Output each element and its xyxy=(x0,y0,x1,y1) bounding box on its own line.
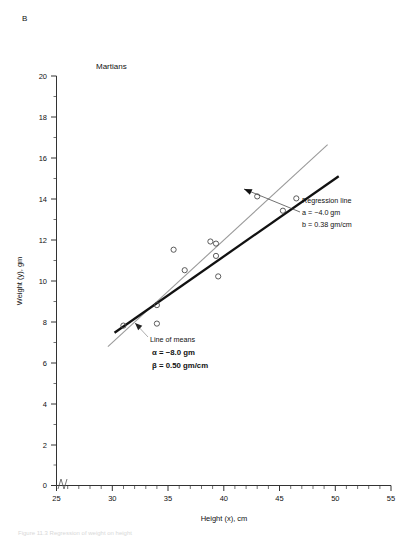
regression-annotation: Regression line a = −4.0 gm b = 0.38 gm/… xyxy=(244,189,352,229)
data-point xyxy=(171,247,176,252)
line-of-means-beta: β = 0.50 gm/cm xyxy=(152,361,208,370)
regression-coef-a: a = −4.0 gm xyxy=(302,208,340,217)
y-tick-label: 12 xyxy=(39,236,47,245)
data-point xyxy=(213,241,218,246)
x-tick-label: 35 xyxy=(164,494,172,503)
y-tick-label: 2 xyxy=(43,441,47,450)
x-tick-label: 55 xyxy=(387,494,395,503)
figure-panel: B Martians xyxy=(0,0,411,541)
y-axis-title: Weight (y), gm xyxy=(15,257,24,306)
data-point xyxy=(280,208,285,213)
y-tick-label: 20 xyxy=(39,72,47,81)
line-of-means-annotation: Line of means α = −8.0 gm β = 0.50 gm/cm xyxy=(135,323,208,370)
data-point xyxy=(154,321,159,326)
y-axis-tick-labels: 20 18 16 14 12 10 8 6 4 2 0 xyxy=(39,72,47,490)
data-point xyxy=(294,196,299,201)
x-tick-label: 50 xyxy=(331,494,339,503)
regression-line-label: Regression line xyxy=(302,196,352,205)
axis-lines xyxy=(57,76,392,489)
x-axis-tick-labels: 25 30 35 40 45 50 55 xyxy=(52,494,395,503)
line-of-means-label: Line of means xyxy=(150,335,196,344)
data-point xyxy=(182,268,187,273)
x-tick-label: 40 xyxy=(220,494,228,503)
y-tick-label: 4 xyxy=(43,400,47,409)
y-axis-ticks xyxy=(51,76,57,486)
y-tick-label: 10 xyxy=(39,277,47,286)
data-point xyxy=(213,253,218,258)
scatter-chart: 20 18 16 14 12 10 8 6 4 2 0 xyxy=(0,0,411,541)
data-point xyxy=(208,239,213,244)
x-axis-title: Height (x), cm xyxy=(201,514,248,523)
y-tick-label: 16 xyxy=(39,154,47,163)
y-tick-label: 0 xyxy=(43,481,47,490)
x-tick-label: 30 xyxy=(108,494,116,503)
data-point xyxy=(216,274,221,279)
figure-caption: Figure 11.3 Regression of weight on heig… xyxy=(18,530,132,536)
y-tick-label: 6 xyxy=(43,359,47,368)
regression-coef-b: b = 0.38 gm/cm xyxy=(302,220,352,229)
x-tick-label: 25 xyxy=(52,494,60,503)
x-tick-label: 45 xyxy=(275,494,283,503)
line-of-means-alpha: α = −8.0 gm xyxy=(152,348,195,357)
x-axis-ticks xyxy=(57,486,392,492)
data-points xyxy=(121,194,299,328)
y-tick-label: 18 xyxy=(39,113,47,122)
y-tick-label: 14 xyxy=(39,195,47,204)
y-tick-label: 8 xyxy=(43,318,47,327)
